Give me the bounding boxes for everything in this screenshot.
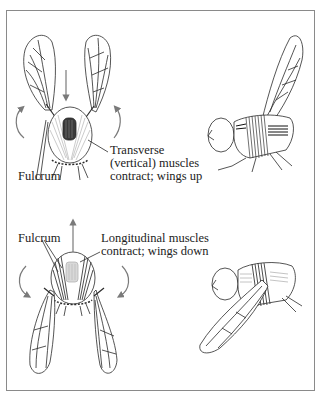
top-front-fly (24, 35, 111, 180)
side-head-bottom (212, 268, 238, 300)
side-head (208, 118, 234, 152)
fulcrum-label-bottom: Fulcrum (18, 232, 60, 245)
transverse-muscle-caption: Transverse (vertical) muscles contract; … (110, 144, 202, 183)
bottom-front-fly (30, 240, 117, 373)
right-wing-up (84, 35, 111, 120)
right-curved-arrow (114, 108, 120, 138)
top-side-fly (208, 36, 303, 172)
fulcrum-label-top: Fulcrum (18, 170, 60, 183)
left-wing-up (24, 35, 56, 118)
right-curved-arrow-down (120, 266, 129, 296)
right-wing-down (94, 288, 117, 373)
left-curved-arrow-down (19, 266, 28, 296)
caption-line-3: contract; wings up (110, 170, 202, 183)
bottom-side-fly (200, 263, 302, 353)
left-curved-arrow (16, 108, 24, 138)
longitudinal-muscle-caption: Longitudinal muscles contract; wings dow… (101, 232, 209, 258)
left-wing-down (30, 288, 55, 373)
flight-muscle-diagram (0, 0, 322, 394)
caption-line-2: contract; wings down (101, 245, 209, 258)
